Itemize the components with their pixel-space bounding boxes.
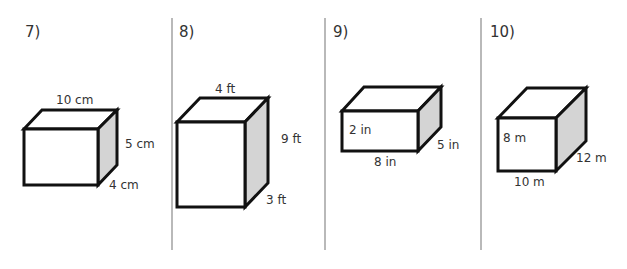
- problem-number: 9): [333, 23, 348, 41]
- problem-9: 9) 2 in 8 in 5 in: [333, 23, 459, 169]
- problem-8: 8) 4 ft 9 ft 3 ft: [177, 23, 301, 207]
- dimension-length: 10 cm: [56, 93, 93, 107]
- dimension-depth: 3 ft: [266, 193, 286, 207]
- prism-front-face: [24, 129, 98, 185]
- dimension-height: 5 cm: [125, 137, 155, 151]
- problem-7: 7) 10 cm 5 cm 4 cm: [24, 23, 155, 192]
- dimension-height: 9 ft: [281, 132, 301, 146]
- dimension-depth: 5 in: [437, 138, 459, 152]
- problem-number: 8): [179, 23, 194, 41]
- problem-number: 7): [25, 23, 40, 41]
- worksheet-canvas: 7) 10 cm 5 cm 4 cm 8) 4 ft 9 ft 3 ft 9) …: [0, 0, 627, 269]
- dimension-depth: 12 m: [576, 151, 607, 165]
- dimension-height: 2 in: [349, 123, 371, 137]
- dimension-length: 10 m: [514, 175, 545, 189]
- dimension-length: 8 in: [374, 155, 396, 169]
- dimension-length: 4 ft: [215, 82, 235, 96]
- problem-10: 10) 8 m 10 m 12 m: [490, 23, 607, 189]
- dimension-depth: 4 cm: [109, 178, 139, 192]
- dimension-height: 8 m: [503, 131, 526, 145]
- prism-front-face: [177, 122, 245, 207]
- problem-number: 10): [490, 23, 515, 41]
